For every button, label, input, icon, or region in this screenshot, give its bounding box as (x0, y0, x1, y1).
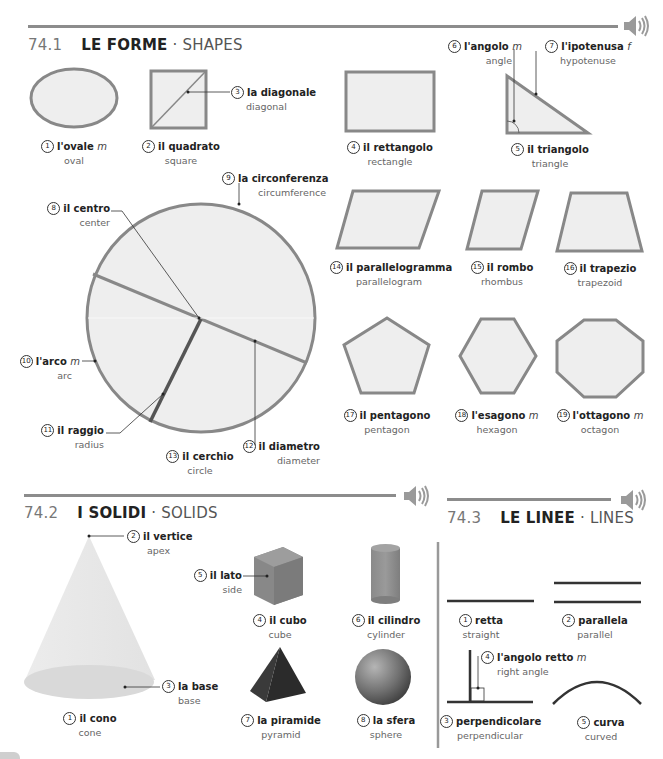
octagon-shape (557, 320, 643, 397)
label-triangle: 5il triangolo triangle (505, 143, 595, 170)
label-perpendicular: 3perpendicolare perpendicular (440, 715, 540, 742)
label-diagonal: 3la diagonale diagonal (231, 86, 316, 113)
label-angle: 6l'angolo m angle (448, 40, 512, 67)
right-angle-marker (471, 688, 484, 701)
sphere-shape (355, 649, 411, 705)
label-center: 8il centro center (28, 202, 110, 229)
label-base: 3la base base (162, 680, 218, 707)
label-trapezoid: 16il trapezio trapezoid (558, 262, 642, 289)
shapes-illustration (0, 0, 663, 480)
label-cone: 1il cono cone (50, 712, 130, 739)
label-hexagon: 18l'esagono m hexagon (452, 409, 542, 436)
label-hypotenuse: 7l'ipotenusa f hypotenuse (538, 40, 638, 67)
rhombus-shape (467, 191, 538, 249)
label-octagon: 19l'ottagono m octagon (552, 409, 648, 436)
pentagon-shape (344, 318, 429, 393)
cone-shape (25, 536, 155, 680)
cone-base (24, 665, 154, 699)
label-sphere: 8la sfera sphere (346, 714, 426, 741)
label-right-angle: 4l'angolo retto m right angle (481, 651, 587, 678)
curved-line (553, 682, 641, 704)
page-corner-tab (0, 752, 20, 759)
trapezoid-shape (557, 193, 642, 251)
label-straight: 1retta straight (446, 614, 516, 641)
label-oval: 1l'ovale m oval (34, 140, 114, 167)
label-rhombus: 15il rombo rhombus (462, 261, 542, 288)
oval-shape (31, 69, 117, 127)
cylinder-shape (371, 548, 400, 600)
label-cube: 4il cubo cube (240, 614, 320, 641)
label-curved: 5curva curved (568, 716, 634, 743)
label-cylinder: 6il cilindro cylinder (346, 614, 426, 641)
label-square: 2il quadrato square (136, 140, 226, 167)
label-pyramid: 7la piramide pyramid (236, 714, 326, 741)
parallelogram-shape (337, 191, 439, 248)
label-arc: 10l'arco m arc (18, 355, 80, 382)
label-circle: 13il cerchio circle (160, 450, 240, 477)
label-parallelogram: 14il parallelogramma parallelogram (330, 261, 448, 288)
label-side: 5il lato side (186, 569, 242, 596)
label-radius: 11il raggio radius (30, 424, 104, 451)
rectangle-shape (346, 72, 434, 131)
label-parallel: 2parallela parallel (555, 614, 635, 641)
triangle-shape (507, 76, 588, 133)
hexagon-shape (460, 319, 536, 393)
label-apex: 2il vertice apex (127, 530, 193, 557)
label-diameter: 12il diametro diameter (236, 440, 320, 467)
label-rectangle: 4il rettangolo rectangle (340, 141, 440, 168)
label-circumference: 9la circonferenza circumference (222, 172, 326, 199)
label-pentagon: 17il pentagono pentagon (340, 409, 434, 436)
